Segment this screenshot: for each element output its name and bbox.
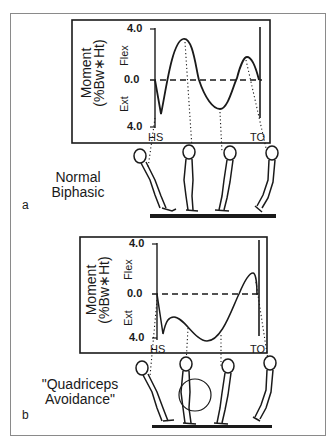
y-axis-title-b: Moment (%Bw∗Ht) [85, 245, 111, 335]
moment-curve-b [157, 273, 257, 341]
flex-label-b: Flex [122, 259, 134, 280]
event-to-b: TO [250, 343, 265, 355]
stick-figures-a [134, 145, 278, 212]
condition-line-1: "Quadriceps [40, 377, 120, 392]
figure-toe-off-b [253, 356, 276, 421]
tick-zero-a: 0.0 [124, 73, 139, 85]
y-title-line-2: (%Bw∗Ht) [98, 245, 111, 335]
leader-lines-b [150, 282, 268, 376]
flex-label-a: Flex [118, 45, 130, 66]
moment-curve-a [155, 39, 259, 114]
ground-b [152, 425, 272, 428]
figure-midstance-a [183, 145, 198, 211]
panel-label-a: a [22, 198, 29, 212]
tick-top-b: 4.0 [129, 237, 144, 249]
figure-heel-strike-b [136, 361, 174, 421]
condition-label-b: "Quadriceps Avoidance" [40, 377, 120, 407]
event-hs-b: HS [150, 343, 165, 355]
tick-bottom-a: 4.0 [127, 120, 142, 132]
event-to-a: TO [250, 131, 265, 143]
condition-line-2: Biphasic [48, 185, 108, 200]
y-axis-title-a: Moment (%Bw∗Ht) [80, 28, 106, 118]
figure-late-stance-b [214, 359, 234, 424]
figure-late-stance-a [215, 146, 236, 211]
tick-zero-b: 0.0 [127, 287, 142, 299]
ext-label-b: Ext [122, 310, 134, 326]
stick-figures-b [136, 356, 276, 424]
ext-label-a: Ext [118, 96, 130, 112]
tick-top-a: 4.0 [127, 22, 142, 34]
leader-lines-a [148, 42, 266, 168]
condition-line-2: Avoidance" [40, 392, 120, 407]
tick-bottom-b: 4.0 [129, 331, 144, 343]
y-title-line-2: (%Bw∗Ht) [93, 28, 106, 118]
event-hs-a: HS [148, 131, 163, 143]
figure-toe-off-a [255, 146, 278, 212]
panel-label-b: b [22, 408, 29, 422]
ground-a [150, 214, 276, 218]
knee-highlight-circle [179, 379, 211, 411]
figure-heel-strike-a [134, 149, 176, 211]
condition-line-1: Normal [48, 170, 108, 185]
figure-midstance-b [180, 357, 196, 424]
condition-label-a: Normal Biphasic [48, 170, 108, 200]
